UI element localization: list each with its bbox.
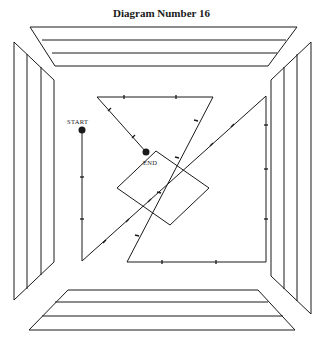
- maze-path: [82, 96, 266, 262]
- top-panel: [30, 27, 297, 66]
- path-ticks: [80, 95, 268, 264]
- right-panel: [271, 42, 311, 314]
- end-marker: [143, 149, 150, 156]
- start-marker: [79, 127, 86, 134]
- bottom-panel: [29, 290, 295, 330]
- left-panel: [14, 42, 54, 300]
- end-label: END: [143, 159, 157, 166]
- diagram-canvas: START END: [0, 0, 323, 341]
- start-label: START: [67, 118, 88, 125]
